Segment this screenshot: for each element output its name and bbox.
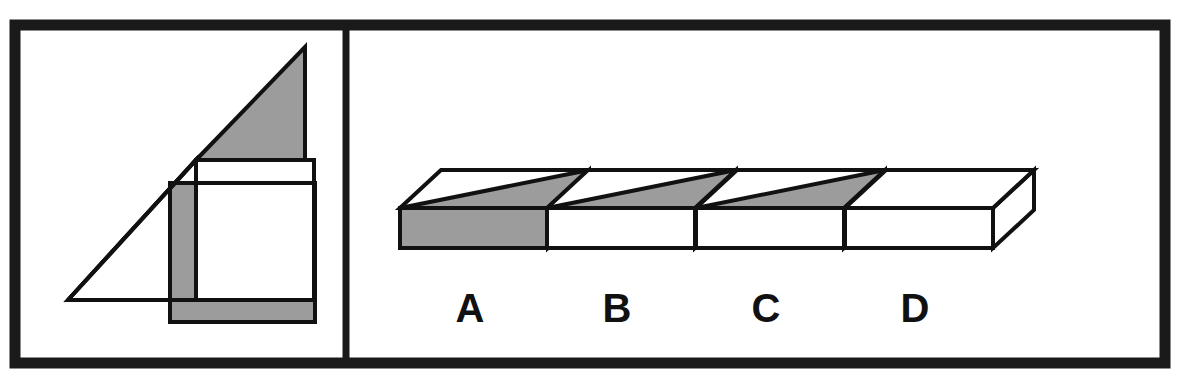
options-panel: A B C: [400, 170, 1034, 330]
option-a-front-face: [400, 208, 548, 248]
option-b-front-face: [547, 208, 695, 248]
option-c-letter: C: [752, 286, 781, 330]
spatial-reasoning-figure: A B C: [0, 0, 1193, 389]
item-page: A B C: [0, 0, 1193, 389]
option-c-front-face: [696, 208, 844, 248]
option-d[interactable]: D: [845, 170, 1034, 330]
option-b-letter: B: [603, 286, 632, 330]
option-d-front-face: [845, 208, 993, 248]
option-d-letter: D: [901, 286, 930, 330]
stimulus-panel: [68, 47, 315, 322]
gray-triangle-shape: [196, 47, 305, 160]
option-a-letter: A: [456, 286, 485, 330]
